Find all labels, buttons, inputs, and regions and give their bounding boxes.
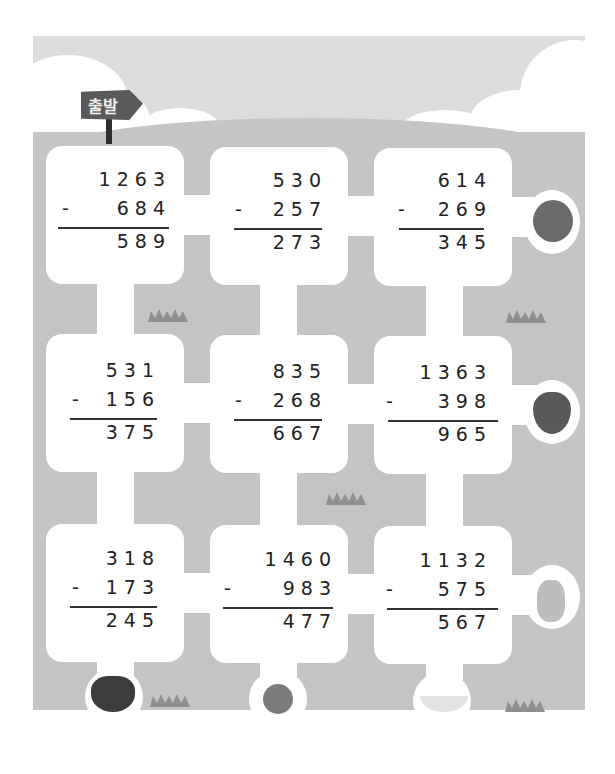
answer-line [387, 608, 498, 610]
difference: 3 4 5 [438, 231, 486, 253]
subtraction-problem: 8 3 5 - 2 6 8 6 6 7 [210, 335, 348, 473]
subtrahend: 6 8 4 [117, 197, 165, 219]
subtrahend: 1 5 6 [106, 388, 154, 410]
operator: - [62, 197, 69, 219]
minuend: 1 4 6 0 [265, 548, 331, 570]
minuend: 1 2 6 3 [99, 168, 165, 190]
grass-decoration [150, 692, 190, 706]
difference: 2 7 3 [273, 231, 321, 253]
subtraction-problem: 3 1 8 - 1 7 3 2 4 5 [46, 524, 184, 662]
operator: - [72, 576, 79, 598]
operator: - [224, 577, 231, 599]
subtrahend: 1 7 3 [106, 576, 154, 598]
subtraction-problem: 1 2 6 3 - 6 8 4 5 8 9 [46, 146, 184, 284]
minuend: 3 1 8 [106, 547, 154, 569]
orange-icon [263, 684, 293, 714]
grapes-icon [91, 676, 135, 712]
subtraction-problem: 1 4 6 0 - 9 8 3 4 7 7 [210, 525, 348, 663]
subtraction-problem: 5 3 0 - 2 5 7 2 7 3 [210, 147, 348, 285]
start-sign-label: 출발 [88, 93, 118, 117]
minuend: 5 3 1 [106, 359, 154, 381]
subtrahend: 9 8 3 [283, 577, 331, 599]
path-connector [97, 468, 134, 528]
answer-line [399, 228, 484, 230]
answer-line [234, 419, 322, 421]
minuend: 1 3 6 3 [420, 361, 486, 383]
difference: 3 7 5 [106, 421, 154, 443]
path-connector [97, 280, 134, 340]
subtrahend: 2 6 8 [273, 389, 321, 411]
answer-line [58, 227, 169, 229]
subtrahend: 2 5 7 [273, 198, 321, 220]
operator: - [235, 389, 242, 411]
answer-line [388, 420, 498, 422]
operator: - [398, 198, 405, 220]
difference: 5 6 7 [438, 611, 486, 633]
path-connector [260, 468, 297, 528]
subtrahend: 3 9 8 [438, 390, 486, 412]
subtraction-problem: 5 3 1 - 1 5 6 3 7 5 [46, 334, 184, 472]
grass-decoration [148, 307, 188, 321]
answer-line [223, 607, 333, 609]
apple-icon [533, 200, 573, 242]
answer-line [70, 418, 157, 420]
pineapple-icon [537, 580, 565, 622]
grass-decoration [326, 490, 366, 504]
operator: - [386, 390, 393, 412]
operator: - [386, 578, 393, 600]
subtraction-problem: 6 1 4 - 2 6 9 3 4 5 [374, 148, 512, 286]
difference: 4 7 7 [283, 610, 331, 632]
grass-decoration [506, 308, 546, 322]
subtraction-problem: 1 1 3 2 - 5 7 5 5 6 7 [374, 526, 512, 664]
path-connector [426, 280, 463, 340]
difference: 5 8 9 [117, 230, 165, 252]
signpost-pole [106, 118, 112, 144]
operator: - [235, 198, 242, 220]
path-connector [260, 280, 297, 340]
difference: 6 6 7 [273, 422, 321, 444]
minuend: 1 1 3 2 [420, 549, 486, 571]
answer-line [234, 228, 322, 230]
difference: 2 4 5 [106, 609, 154, 631]
minuend: 5 3 0 [273, 169, 321, 191]
path-connector [426, 468, 463, 528]
subtraction-problem: 1 3 6 3 - 3 9 8 9 6 5 [374, 336, 512, 474]
answer-line [70, 606, 157, 608]
minuend: 6 1 4 [438, 169, 486, 191]
subtrahend: 2 6 9 [438, 198, 486, 220]
operator: - [72, 388, 79, 410]
subtrahend: 5 7 5 [438, 578, 486, 600]
difference: 9 6 5 [438, 423, 486, 445]
grass-decoration [505, 697, 545, 711]
minuend: 8 3 5 [273, 360, 321, 382]
